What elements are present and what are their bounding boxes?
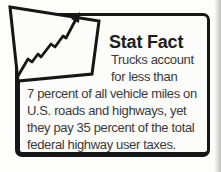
stat-fact-body-line: 7 percent of all vehicle miles on xyxy=(27,87,197,101)
stat-fact-title: Stat Fact xyxy=(109,32,183,53)
stat-fact-body-line: for less than xyxy=(111,70,177,84)
stat-fact-body-line: federal highway user taxes. xyxy=(27,138,176,152)
page-scan-edge xyxy=(215,0,221,172)
stat-fact-body-line: Trucks account xyxy=(111,53,194,67)
stat-fact-body-line: they pay 35 percent of the total xyxy=(27,121,194,135)
page: Stat Fact Trucks account for less than 7… xyxy=(0,0,221,172)
trend-up-chart-icon xyxy=(6,3,104,87)
stat-fact-body-line: U.S. roads and highways, yet xyxy=(27,104,186,118)
